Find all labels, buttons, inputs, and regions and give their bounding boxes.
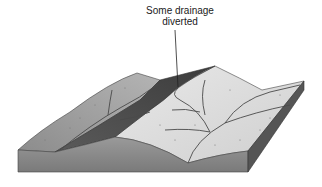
block-diagram — [0, 0, 322, 187]
